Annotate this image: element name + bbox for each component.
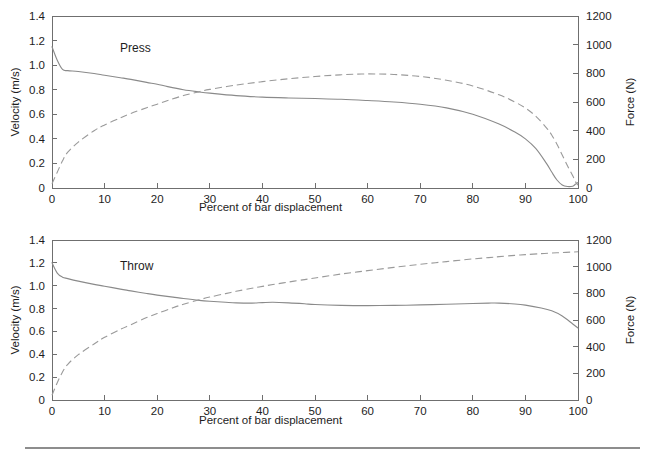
- press-y-tick-label: 0.8: [29, 84, 45, 96]
- press-y2-tick-label: 1200: [586, 10, 612, 22]
- press-y2-tick-label: 1000: [586, 39, 612, 51]
- throw-x-axis-title: Percent of bar displacement: [199, 414, 343, 426]
- press-y-tick-label: 0.2: [29, 157, 45, 169]
- throw-x-tick-label: 80: [466, 405, 479, 417]
- throw-x-tick-marks: [52, 395, 578, 400]
- press-y2-tick-labels: 020040060080010001200: [586, 10, 612, 194]
- throw-y2-tick-label: 0: [586, 394, 592, 406]
- throw-x-tick-label: 90: [519, 405, 532, 417]
- press-y-axis-title: Velocity (m/s): [9, 67, 21, 136]
- throw-y-tick-label: 0.4: [29, 348, 46, 360]
- press-x-tick-label: 0: [49, 193, 55, 205]
- throw-x-tick-label: 100: [568, 405, 587, 417]
- press-panel-label: Press: [120, 41, 151, 55]
- press-y-tick-label: 1.2: [29, 35, 45, 47]
- throw-y-tick-label: 0.8: [29, 303, 45, 315]
- press-y-tick-labels: 00.20.40.60.81.01.21.4: [29, 10, 46, 194]
- press-y-tick-label: 0.6: [29, 108, 45, 120]
- throw-y2-tick-label: 1200: [586, 234, 612, 246]
- throw-y2-tick-label: 400: [586, 341, 605, 353]
- figure-container: 0102030405060708090100 00.20.40.60.81.01…: [0, 0, 646, 458]
- throw-y-tick-label: 0: [39, 394, 45, 406]
- press-y2-tick-label: 600: [586, 96, 605, 108]
- throw-x-tick-label: 60: [361, 405, 374, 417]
- throw-y-tick-label: 1.0: [29, 280, 45, 292]
- press-y2-tick-label: 800: [586, 67, 605, 79]
- throw-y-tick-label: 1.4: [29, 234, 46, 246]
- charts-svg: 0102030405060708090100 00.20.40.60.81.01…: [0, 0, 646, 458]
- press-y2-tick-marks: [573, 16, 578, 188]
- press-x-tick-label: 100: [568, 193, 587, 205]
- press-y2-tick-label: 400: [586, 125, 605, 137]
- throw-y2-tick-label: 1000: [586, 261, 612, 273]
- press-x-tick-label: 90: [519, 193, 532, 205]
- throw-y2-axis-title: Force (N): [624, 296, 636, 345]
- press-x-tick-label: 70: [414, 193, 427, 205]
- throw-y2-tick-label: 200: [586, 367, 605, 379]
- press-velocity-curve: [52, 47, 578, 187]
- press-y-tick-marks: [52, 16, 57, 188]
- throw-y-tick-label: 1.2: [29, 257, 45, 269]
- press-y-tick-label: 1.0: [29, 59, 45, 71]
- press-y-tick-label: 0.4: [29, 133, 46, 145]
- throw-y2-tick-label: 800: [586, 287, 605, 299]
- press-x-tick-label: 80: [466, 193, 479, 205]
- chart-panel-throw: 0102030405060708090100 00.20.40.60.81.01…: [9, 234, 636, 426]
- throw-x-tick-label: 0: [49, 405, 55, 417]
- throw-y-tick-label: 0.6: [29, 325, 45, 337]
- press-x-tick-label: 60: [361, 193, 374, 205]
- throw-x-tick-label: 20: [151, 405, 164, 417]
- throw-y2-tick-marks: [573, 240, 578, 400]
- press-y2-axis-title: Force (N): [624, 78, 636, 127]
- press-x-tick-label: 20: [151, 193, 164, 205]
- throw-x-tick-label: 70: [414, 405, 427, 417]
- throw-y2-tick-label: 600: [586, 314, 605, 326]
- press-y-tick-label: 0: [39, 182, 45, 194]
- press-x-tick-marks: [52, 183, 578, 188]
- throw-y2-tick-labels: 020040060080010001200: [586, 234, 612, 406]
- throw-y-axis-title: Velocity (m/s): [9, 285, 21, 354]
- throw-x-tick-label: 10: [98, 405, 111, 417]
- press-y-tick-label: 1.4: [29, 10, 46, 22]
- throw-y-tick-label: 0.2: [29, 371, 45, 383]
- throw-force-curve: [52, 252, 578, 396]
- press-force-curve: [52, 74, 578, 185]
- throw-panel-label: Throw: [120, 259, 154, 273]
- chart-panel-press: 0102030405060708090100 00.20.40.60.81.01…: [9, 10, 636, 213]
- press-x-tick-label: 10: [98, 193, 111, 205]
- throw-y-tick-labels: 00.20.40.60.81.01.21.4: [29, 234, 46, 406]
- press-y2-tick-label: 0: [586, 182, 592, 194]
- press-y2-tick-label: 200: [586, 153, 605, 165]
- press-x-axis-title: Percent of bar displacement: [199, 201, 343, 213]
